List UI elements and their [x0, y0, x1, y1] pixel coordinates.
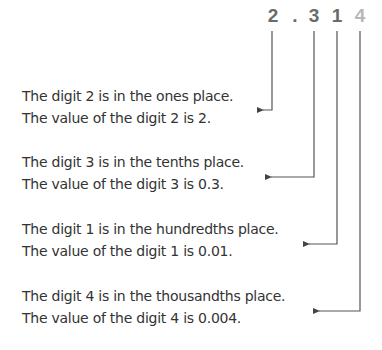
explanation-tenths: The digit 3 is in the tenths place. The …	[22, 152, 244, 195]
explanation-thousandths: The digit 4 is in the thousandths place.…	[22, 286, 285, 329]
place-statement: The digit 4 is in the thousandths place.	[22, 286, 285, 308]
place-statement: The digit 2 is in the ones place.	[22, 86, 233, 108]
value-statement: The value of the digit 1 is 0.01.	[22, 241, 279, 263]
arrow-ones	[263, 31, 272, 110]
arrow-hundredths	[309, 31, 337, 244]
place-statement: The digit 3 is in the tenths place.	[22, 152, 244, 174]
place-statement: The digit 1 is in the hundredths place.	[22, 219, 279, 241]
explanation-hundredths: The digit 1 is in the hundredths place. …	[22, 219, 279, 262]
value-statement: The value of the digit 4 is 0.004.	[22, 308, 285, 330]
arrow-thousandths	[319, 31, 360, 311]
explanation-ones: The digit 2 is in the ones place. The va…	[22, 86, 233, 129]
value-statement: The value of the digit 2 is 2.	[22, 108, 233, 130]
arrow-tenths	[271, 31, 314, 177]
value-statement: The value of the digit 3 is 0.3.	[22, 174, 244, 196]
